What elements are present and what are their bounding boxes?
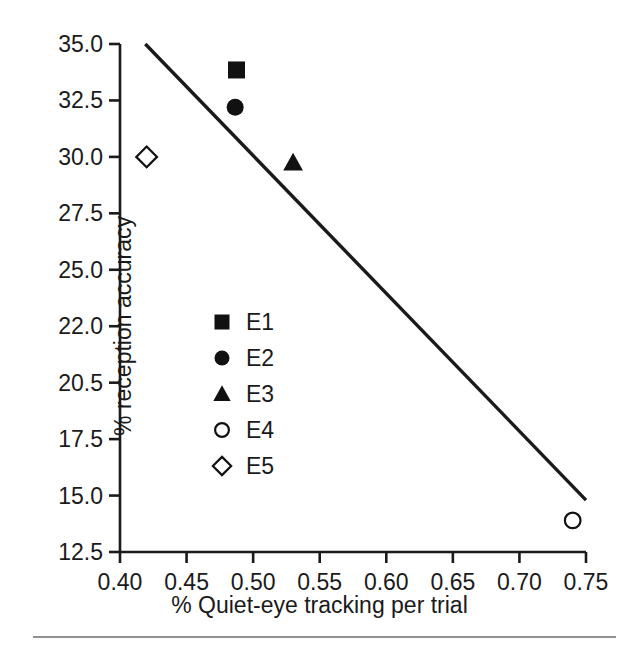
axes — [120, 44, 586, 552]
data-point-e3 — [283, 153, 303, 171]
legend-marker-e4 — [215, 423, 229, 437]
trendline-segment — [145, 44, 586, 500]
y-tick-label: 12.5 — [0, 539, 103, 566]
figure-scatter-plot: 35.032.530.027.525.022.020.517.515.012.5… — [0, 0, 639, 652]
legend-marker-e1 — [215, 315, 230, 330]
legend-label-e1: E1 — [246, 309, 274, 336]
data-point-e5 — [136, 147, 157, 168]
y-tick-label: 15.0 — [0, 482, 103, 509]
x-axis-ticks — [120, 552, 586, 563]
legend-label-e2: E2 — [246, 345, 274, 372]
y-tick-label: 32.5 — [0, 87, 103, 114]
x-axis-title: % Quiet-eye tracking per trial — [0, 592, 639, 619]
legend-marker-e2 — [215, 351, 230, 366]
data-points — [136, 61, 580, 528]
y-tick-label: 17.5 — [0, 426, 103, 453]
data-point-e2 — [227, 99, 244, 116]
legend-label-e4: E4 — [246, 417, 274, 444]
y-tick-label: 25.0 — [0, 256, 103, 283]
data-point-e1 — [228, 61, 245, 78]
legend-marker-e5 — [213, 457, 231, 475]
y-tick-label: 27.5 — [0, 200, 103, 227]
data-point-e4 — [565, 513, 581, 529]
y-axis-title: % reception accuracy — [110, 216, 137, 436]
y-tick-label: 22.0 — [0, 313, 103, 340]
legend-markers — [213, 315, 231, 476]
y-tick-label: 20.5 — [0, 369, 103, 396]
legend-label-e3: E3 — [246, 381, 274, 408]
legend-label-e5: E5 — [246, 453, 274, 480]
legend-marker-e3 — [213, 385, 230, 401]
regression-trendline — [145, 44, 586, 500]
y-tick-label: 30.0 — [0, 143, 103, 170]
y-tick-label: 35.0 — [0, 31, 103, 58]
